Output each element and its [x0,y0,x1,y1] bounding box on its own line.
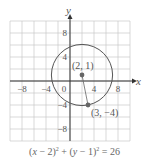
y-axis-label: y [65,4,71,16]
x-tick-label: 0 [62,84,67,94]
y-tick-label: 4 [63,52,68,62]
x-tick-label: 8 [116,84,121,94]
caption-text: = 26 [99,146,120,157]
y-tick-label: −8 [57,124,67,134]
point-on-circle [86,103,91,108]
x-axis-label: x [135,75,141,87]
caption-text: − 2) [37,146,56,157]
point-label: (3, −4) [91,107,118,119]
radius-segment [82,75,88,105]
x-tick-label: 4 [92,84,97,94]
center-label: (2, 1) [72,60,94,72]
caption-text: + ( [59,146,73,157]
coordinate-plane: −8−404884−4−8 (2, 1) (3, −4) x y [0,0,149,146]
center-point [80,73,85,78]
equation-caption: (x − 2)2 + (y − 1)2 = 26 [0,146,149,157]
x-tick-label: −4 [41,84,51,94]
y-tick-label: 8 [63,28,68,38]
caption-text: − 1) [77,146,96,157]
x-tick-label: −8 [17,84,27,94]
